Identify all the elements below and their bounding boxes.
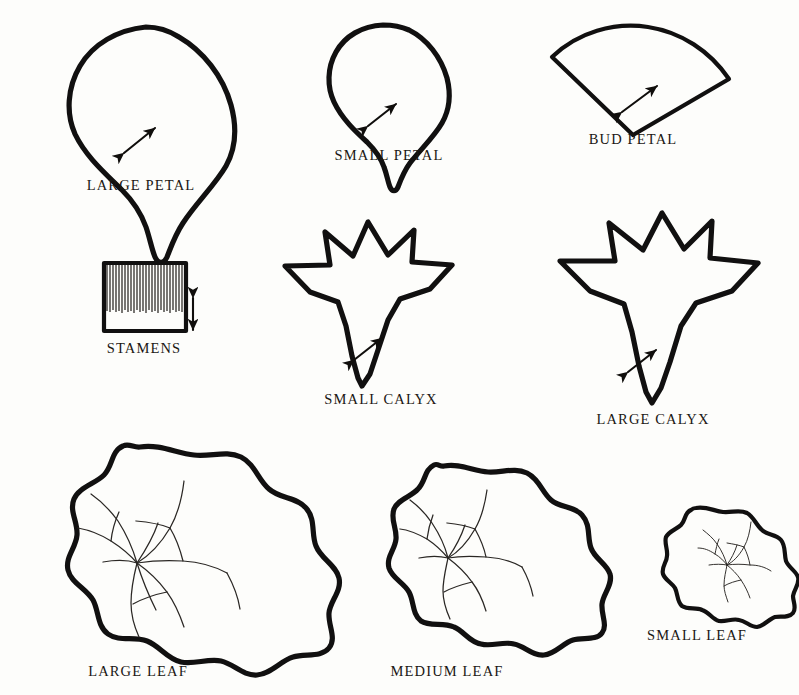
large-petal-size-arrow	[124, 128, 155, 153]
small-petal-size-arrow	[368, 104, 396, 126]
medium-leaf-shape	[388, 464, 610, 655]
large-leaf-shape	[67, 445, 339, 675]
small-leaf-veins	[698, 522, 771, 602]
large-calyx-shape	[560, 213, 758, 403]
large-leaf-label: LARGE LEAF	[88, 664, 188, 679]
pattern-sheet: LARGE PETAL SMALL PETAL BUD PETAL STAMEN…	[0, 0, 799, 695]
large-petal-label: LARGE PETAL	[87, 178, 196, 193]
large-petal-shape	[69, 27, 235, 262]
small-leaf-shape	[663, 508, 799, 627]
large-leaf-veins	[78, 481, 240, 637]
medium-leaf-label: MEDIUM LEAF	[391, 664, 504, 679]
stamens-shape	[104, 263, 193, 331]
bud-petal-label: BUD PETAL	[589, 132, 678, 147]
small-leaf-label: SMALL LEAF	[647, 628, 747, 643]
small-calyx-shape	[285, 222, 452, 386]
large-calyx-label: LARGE CALYX	[596, 412, 709, 427]
small-petal-shape	[329, 25, 449, 191]
medium-leaf-veins	[400, 490, 533, 619]
bud-petal-size-arrow	[622, 86, 657, 112]
small-petal-label: SMALL PETAL	[335, 148, 444, 163]
small-calyx-label: SMALL CALYX	[324, 392, 437, 407]
stamens-label: STAMENS	[107, 341, 182, 356]
bud-petal-shape	[552, 26, 729, 135]
stamens-fringe-lines	[107, 265, 182, 313]
